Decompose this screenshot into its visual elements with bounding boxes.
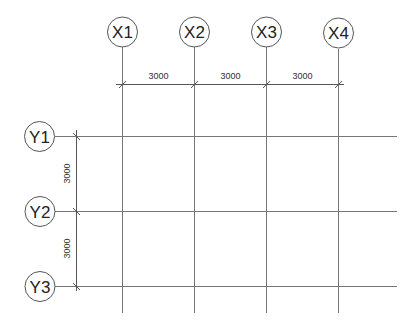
grid-plan-canvas: X1 X2 X3 X4 Y1 Y2 Y3 <box>0 0 420 331</box>
x-dimension-chain <box>116 81 344 88</box>
axis-bubble-y3[interactable]: Y3 <box>25 272 55 302</box>
axis-bubble-y2[interactable]: Y2 <box>25 197 55 227</box>
axis-label-y1: Y1 <box>29 128 50 147</box>
axis-label-x3: X3 <box>256 23 277 42</box>
axis-label-y3: Y3 <box>30 278 51 297</box>
axis-label-x2: X2 <box>184 23 205 42</box>
axis-label-y2: Y2 <box>30 203 51 222</box>
dimension-text-x3-x4[interactable]: 3000 <box>292 71 312 81</box>
axis-bubble-x2[interactable]: X2 <box>180 17 210 47</box>
axis-bubble-x4[interactable]: X4 <box>324 18 354 48</box>
y-dimension-chain <box>73 130 80 291</box>
dimension-text-x2-x3[interactable]: 3000 <box>220 71 240 81</box>
y-axis-bubbles: Y1 Y2 Y3 <box>25 122 56 302</box>
y-grid-lines <box>55 137 397 287</box>
axis-bubble-x3[interactable]: X3 <box>252 17 282 47</box>
axis-label-x4: X4 <box>328 24 349 43</box>
axis-bubble-y1[interactable]: Y1 <box>25 122 55 152</box>
dimension-text-y1-y2[interactable]: 3000 <box>62 163 72 183</box>
grid-plan-drawing: X1 X2 X3 X4 Y1 Y2 Y3 <box>0 0 420 331</box>
x-axis-bubbles: X1 X2 X3 X4 <box>108 17 354 48</box>
dimension-text-x1-x2[interactable]: 3000 <box>148 71 168 81</box>
axis-bubble-x1[interactable]: X1 <box>108 17 138 47</box>
axis-label-x1: X1 <box>112 23 133 42</box>
x-dimension-texts: 3000 3000 3000 <box>148 71 312 81</box>
x-grid-lines <box>123 47 339 313</box>
dimension-text-y2-y3[interactable]: 3000 <box>62 238 72 258</box>
